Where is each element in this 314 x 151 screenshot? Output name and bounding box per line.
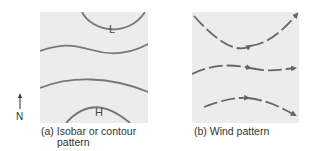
north-label: N: [16, 111, 23, 122]
wind-panel: [192, 12, 299, 123]
wind-arrows: [192, 14, 297, 115]
high-pressure-label: H: [95, 106, 103, 118]
caption-a: (a) Isobar or contour pattern: [41, 126, 136, 148]
low-pressure-label: L: [109, 23, 115, 35]
isobar-panel: L H: [40, 12, 148, 123]
caption-b: (b) Wind pattern: [194, 126, 269, 137]
